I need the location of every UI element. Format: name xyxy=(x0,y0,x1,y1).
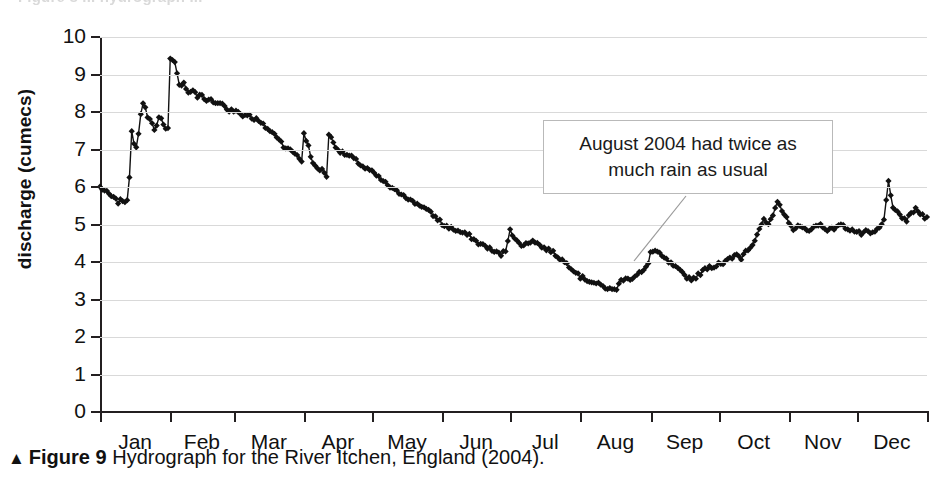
y-axis-tick-label: 0 xyxy=(48,399,86,423)
x-axis-tick xyxy=(304,412,306,422)
y-axis-tick xyxy=(91,224,100,226)
figure-caption: ▲Figure 9 Hydrograph for the River Itche… xyxy=(8,446,545,469)
gridline xyxy=(100,75,927,76)
x-axis-tick xyxy=(927,412,929,422)
caption-figure-label: Figure 9 xyxy=(29,446,107,468)
y-axis-tick-label: 5 xyxy=(48,212,86,236)
y-axis-tick xyxy=(91,336,100,338)
y-axis-tick-label: 7 xyxy=(48,137,86,161)
x-axis-tick-label: Aug xyxy=(597,430,634,454)
y-axis-tick xyxy=(91,111,100,113)
caption-triangle-icon: ▲ xyxy=(8,449,25,468)
top-bleed-text: Figure 8 ... hydrograph ... xyxy=(0,0,939,14)
y-axis-tick-label: 6 xyxy=(48,174,86,198)
y-axis-tick xyxy=(91,149,100,151)
caption-body-text: Hydrograph for the River Itchen, England… xyxy=(112,446,544,468)
chart-area: discharge (cumecs) 012345678910JanFebMar… xyxy=(0,18,939,438)
y-axis-tick-label: 10 xyxy=(48,24,86,48)
gridline xyxy=(100,112,927,113)
y-axis-tick xyxy=(91,299,100,301)
x-axis-tick xyxy=(170,412,172,422)
gridline xyxy=(100,375,927,376)
gridline xyxy=(100,337,927,338)
y-axis-tick xyxy=(91,411,100,413)
y-axis-tick-label: 2 xyxy=(48,324,86,348)
y-axis-tick-label: 8 xyxy=(48,99,86,123)
y-axis-title: discharge (cumecs) xyxy=(14,14,36,344)
x-axis-tick-label: Sep xyxy=(666,430,703,454)
annotation-callout-text: August 2004 had twice as much rain as us… xyxy=(571,131,805,183)
x-axis-tick xyxy=(442,412,444,422)
gridline xyxy=(100,300,927,301)
gridline xyxy=(100,262,927,263)
x-axis-tick xyxy=(510,412,512,422)
annotation-line-2: much rain as usual xyxy=(608,159,767,180)
plot-region: 012345678910JanFebMarAprMayJunJulAugSepO… xyxy=(100,37,927,412)
y-axis-tick xyxy=(91,374,100,376)
x-axis-tick xyxy=(651,412,653,422)
x-axis-tick xyxy=(857,412,859,422)
y-axis-tick xyxy=(91,36,100,38)
x-axis-tick-label: Oct xyxy=(737,430,770,454)
y-axis-tick-label: 1 xyxy=(48,362,86,386)
y-axis-tick xyxy=(91,74,100,76)
x-axis-tick xyxy=(789,412,791,422)
annotation-callout: August 2004 had twice as much rain as us… xyxy=(543,120,833,194)
x-axis-tick xyxy=(372,412,374,422)
y-axis-tick-label: 9 xyxy=(48,62,86,86)
x-axis-tick-label: Dec xyxy=(873,430,910,454)
gridline xyxy=(100,225,927,226)
x-axis-tick xyxy=(100,412,102,422)
y-axis-tick-label: 4 xyxy=(48,249,86,273)
x-axis-tick-label: Nov xyxy=(804,430,841,454)
x-axis-tick xyxy=(580,412,582,422)
annotation-line-1: August 2004 had twice as xyxy=(579,133,797,154)
y-axis-tick xyxy=(91,261,100,263)
figure-hydrograph: Figure 8 ... hydrograph ... discharge (c… xyxy=(0,0,939,478)
y-axis-tick-label: 3 xyxy=(48,287,86,311)
y-axis-tick xyxy=(91,186,100,188)
x-axis-tick xyxy=(234,412,236,422)
gridline xyxy=(100,37,927,38)
x-axis-tick xyxy=(719,412,721,422)
